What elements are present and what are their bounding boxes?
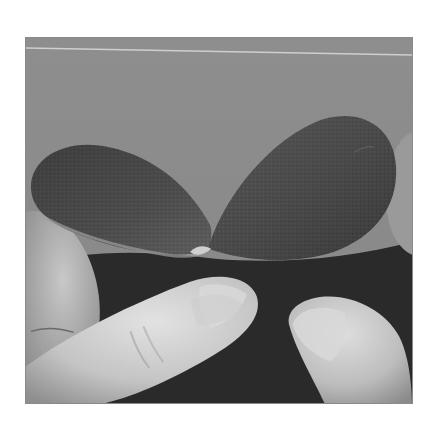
photo-illustration (26, 38, 412, 403)
photo (25, 37, 413, 404)
page-canvas (0, 0, 437, 426)
